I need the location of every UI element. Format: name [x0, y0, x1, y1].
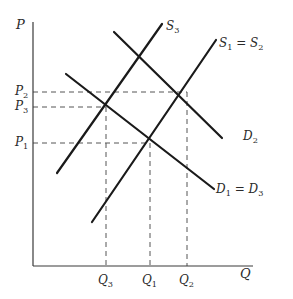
quantity-label-q2: Q2	[179, 273, 194, 289]
curve-label-d2: D2	[242, 129, 258, 145]
supply-demand-diagram: PQP2P3P1Q3Q1Q2S3S1 = S2D2D1 = D3	[0, 0, 293, 299]
y-axis-label: P	[15, 17, 25, 32]
axes	[33, 22, 253, 266]
price-label-p1: P1	[14, 135, 28, 151]
curves	[57, 24, 222, 222]
supply-curve-s1-eq-s2	[92, 40, 216, 222]
curve-label-s3: S3	[166, 19, 179, 35]
demand-curve-d1-eq-d3	[66, 74, 214, 189]
curve-label-s1-eq-s2: S1 = S2	[219, 36, 264, 52]
quantity-label-q1: Q1	[142, 273, 157, 289]
curve-label-d1-eq-d3: D1 = D3	[215, 182, 263, 198]
x-axis-label: Q	[240, 266, 251, 281]
supply-curve-s3	[57, 24, 162, 173]
price-label-p2: P2	[14, 84, 28, 100]
price-label-p3: P3	[14, 99, 28, 115]
demand-curve-d2	[114, 32, 222, 138]
quantity-label-q3: Q3	[98, 273, 113, 289]
